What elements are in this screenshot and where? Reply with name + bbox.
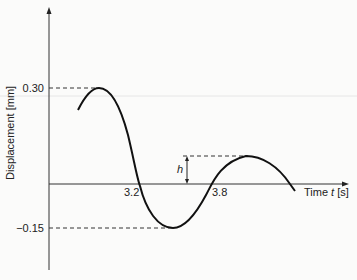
y-tick-neg015: −0.15	[16, 222, 44, 234]
x-tick-3-8: 3.8	[212, 186, 227, 198]
y-axis-arrow-icon	[47, 7, 52, 14]
h-arrow-down-icon	[185, 179, 189, 184]
x-axis-title: Time t [s]	[304, 186, 349, 198]
displacement-diagram: 0.30 −0.15 3.2 3.8 h Displacement [mm] T…	[0, 0, 357, 280]
x-tick-3-2: 3.2	[124, 186, 139, 198]
y-axis-title: Displacement [mm]	[4, 86, 16, 180]
y-tick-030: 0.30	[23, 82, 44, 94]
h-label: h	[177, 163, 183, 175]
h-arrow-up-icon	[185, 156, 189, 161]
